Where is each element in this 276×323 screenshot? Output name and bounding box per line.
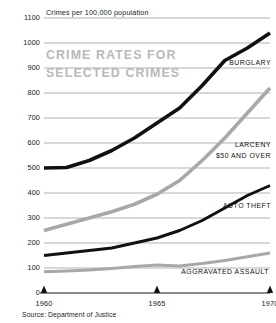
crime-rates-chart: Crimes per 100,000 population CRIME RATE… <box>0 0 276 323</box>
y-axis-tick-1100: 1100 <box>10 13 40 22</box>
x-axis-tick-1960: 1960 <box>35 299 52 308</box>
series-label-burglary: BURGLARY <box>229 59 271 66</box>
y-axis-tick-0: 0 <box>10 288 40 297</box>
series-label-aggravated-assault: AGGRAVATED ASSAULT <box>181 268 269 275</box>
y-axis-tick-600: 600 <box>10 138 40 147</box>
y-axis-tick-labels: 010020030040050060070080090010001100 <box>10 0 40 323</box>
series-label-larceny-line2: $50 AND OVER <box>216 151 271 162</box>
series-label-auto-theft: AUTO THEFT <box>223 202 271 209</box>
y-axis-tick-200: 200 <box>10 238 40 247</box>
page-title: CRIME RATES FOR SELECTED CRIMES <box>46 47 180 82</box>
y-axis-tick-700: 700 <box>10 113 40 122</box>
series-label-larceny-line1: LARCENY <box>216 140 271 151</box>
y-axis-tick-1000: 1000 <box>10 38 40 47</box>
y-axis-tick-800: 800 <box>10 88 40 97</box>
y-axis-tick-300: 300 <box>10 213 40 222</box>
x-axis-tick-1970: 1970 <box>261 299 276 308</box>
y-axis-tick-100: 100 <box>10 263 40 272</box>
y-axis-tick-500: 500 <box>10 163 40 172</box>
x-tick-markers-group <box>41 286 273 294</box>
y-axis-tick-400: 400 <box>10 188 40 197</box>
unit-caption: Crimes per 100,000 population <box>46 8 149 17</box>
source-note: Source: Department of Justice <box>22 311 116 318</box>
series-label-larceny: LARCENY $50 AND OVER <box>216 140 271 161</box>
y-axis-tick-900: 900 <box>10 63 40 72</box>
x-axis-tick-1965: 1965 <box>148 299 165 308</box>
